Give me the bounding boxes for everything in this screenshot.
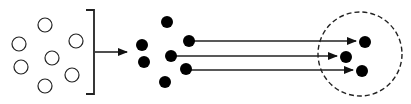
filled-dot: [161, 16, 173, 28]
background: [0, 0, 411, 104]
target-dot: [356, 65, 368, 77]
filled-dot: [159, 76, 171, 88]
filled-dot: [136, 39, 148, 51]
selection-diagram: [0, 0, 411, 104]
filled-dot: [183, 35, 195, 47]
filled-dot: [180, 63, 192, 75]
filled-dot: [138, 56, 150, 68]
target-dot: [359, 36, 371, 48]
filled-dot: [165, 50, 177, 62]
target-dot: [340, 51, 352, 63]
